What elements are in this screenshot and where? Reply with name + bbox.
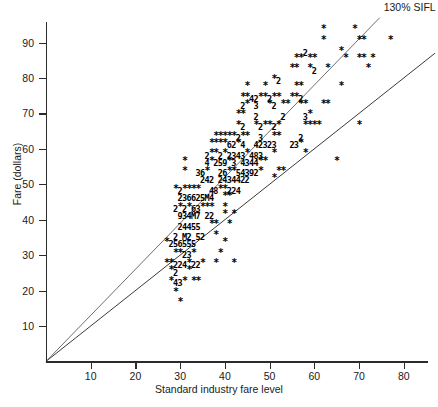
data-point: * bbox=[213, 259, 219, 268]
data-point-layer: ******2************2***2*******42**2****… bbox=[0, 0, 438, 407]
data-point: 2 bbox=[200, 233, 205, 242]
data-point: * bbox=[356, 121, 362, 130]
data-point: 2 bbox=[209, 176, 214, 185]
data-point: * bbox=[222, 210, 228, 219]
data-point: * bbox=[316, 121, 322, 130]
data-point: * bbox=[209, 203, 215, 212]
refline-label-130-sifl: 130% SIFL bbox=[384, 2, 436, 13]
data-point: * bbox=[334, 157, 340, 166]
data-point: * bbox=[227, 220, 233, 229]
data-point: * bbox=[200, 259, 206, 268]
data-point: 2 bbox=[272, 102, 277, 111]
data-point: * bbox=[276, 121, 282, 130]
scatter-plot-figure: 102030405060708090 1020304050607080 Fare… bbox=[0, 0, 438, 407]
data-point: * bbox=[285, 100, 291, 109]
data-point: * bbox=[245, 82, 251, 91]
data-point: * bbox=[303, 100, 309, 109]
data-point: * bbox=[276, 132, 282, 141]
data-point: * bbox=[240, 110, 246, 119]
data-point: * bbox=[365, 64, 371, 73]
data-point: * bbox=[272, 149, 278, 158]
data-point: * bbox=[298, 54, 304, 63]
data-point: * bbox=[294, 64, 300, 73]
data-point: * bbox=[245, 100, 251, 109]
data-point: 7 bbox=[195, 212, 200, 221]
data-point: 3 bbox=[254, 102, 259, 111]
data-point: 5 bbox=[195, 223, 200, 232]
data-point: * bbox=[182, 277, 188, 286]
data-point: * bbox=[298, 139, 304, 148]
data-point: * bbox=[298, 82, 304, 91]
data-point: * bbox=[312, 54, 318, 63]
data-point: * bbox=[204, 167, 210, 176]
data-point: * bbox=[325, 100, 331, 109]
data-point: * bbox=[343, 54, 349, 63]
data-point: 2 bbox=[245, 176, 250, 185]
data-point: 2 bbox=[312, 67, 317, 76]
data-point: * bbox=[303, 149, 309, 158]
data-point: * bbox=[339, 82, 345, 91]
data-point: * bbox=[245, 132, 251, 141]
data-point: 2 bbox=[276, 77, 281, 86]
data-point: * bbox=[370, 54, 376, 63]
data-point: * bbox=[227, 192, 233, 201]
data-point: * bbox=[263, 82, 269, 91]
data-point: * bbox=[178, 298, 184, 307]
data-point: * bbox=[191, 249, 197, 258]
data-point: * bbox=[182, 167, 188, 176]
data-point: * bbox=[218, 249, 224, 258]
data-point: * bbox=[321, 25, 327, 34]
data-point: * bbox=[272, 174, 278, 183]
data-point: * bbox=[213, 220, 219, 229]
data-point: * bbox=[280, 167, 286, 176]
data-point: * bbox=[321, 36, 327, 45]
data-point: * bbox=[195, 277, 201, 286]
data-point: * bbox=[361, 54, 367, 63]
data-point: * bbox=[213, 231, 219, 240]
data-point: * bbox=[361, 36, 367, 45]
data-point: * bbox=[173, 288, 179, 297]
data-point: * bbox=[263, 157, 269, 166]
data-point: * bbox=[325, 64, 331, 73]
data-point: * bbox=[231, 259, 237, 268]
data-point: 4 bbox=[236, 187, 241, 196]
data-point: * bbox=[195, 185, 201, 194]
data-point: * bbox=[231, 210, 237, 219]
data-point: * bbox=[222, 238, 228, 247]
data-point: * bbox=[388, 36, 394, 45]
data-point: * bbox=[352, 25, 358, 34]
data-point: * bbox=[307, 110, 313, 119]
data-point: * bbox=[187, 266, 193, 275]
data-point: * bbox=[182, 157, 188, 166]
data-point: * bbox=[258, 167, 264, 176]
